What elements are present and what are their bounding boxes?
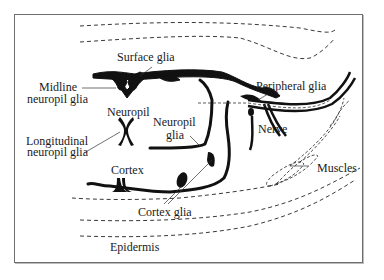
label-neuropil-glia-line2: glia — [166, 129, 184, 142]
label-peripheral-glia: Peripheral glia — [256, 80, 326, 93]
label-longitudinal-line2: neuropil glia — [27, 146, 88, 159]
label-midline-line2: neuropil glia — [27, 93, 88, 106]
epidermis-bottom-outlines — [72, 168, 360, 237]
label-surface-glia: Surface glia — [117, 51, 175, 64]
peripheral-glia-cell — [240, 94, 262, 116]
neuropil-glia-outline — [88, 80, 229, 192]
label-cortex: Cortex — [111, 164, 144, 177]
label-epidermis: Epidermis — [110, 241, 159, 254]
label-nerve: Nerve — [258, 123, 287, 136]
surface-glia-sheath — [93, 70, 280, 98]
label-neuropil: Neuropil — [107, 106, 150, 119]
nerve-vertical — [250, 116, 253, 150]
longitudinal-neuropil-glia — [118, 117, 134, 146]
label-muscles: Muscles — [317, 162, 357, 175]
label-cortex-glia: Cortex glia — [138, 206, 192, 219]
